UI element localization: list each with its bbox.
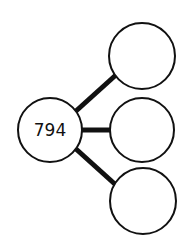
number-bond-diagram: 794 [0,0,187,248]
connector-bottom [76,149,117,186]
whole-circle: 794 [18,98,82,162]
part-circle-top[interactable] [109,23,175,89]
part-circle-bottom[interactable] [110,168,176,234]
connector-top [76,74,117,111]
part-circle-middle[interactable] [110,98,174,162]
whole-value: 794 [34,120,66,140]
